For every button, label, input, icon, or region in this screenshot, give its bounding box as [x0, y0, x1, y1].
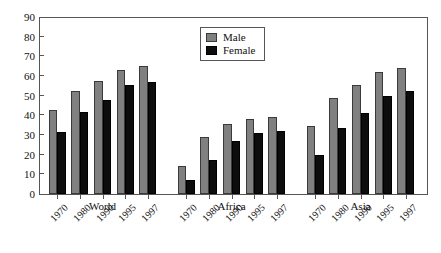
x-axis-year-label: 1997: [139, 202, 161, 224]
x-axis-tick-mark: [209, 195, 210, 199]
legend-swatch-female: [206, 46, 217, 55]
x-axis-year-label: 1995: [116, 202, 138, 224]
bar-africa-1990-male: [223, 124, 232, 194]
y-axis-tick: 20: [0, 148, 44, 162]
legend-label: Female: [223, 44, 255, 57]
y-axis-tick: 60: [0, 69, 44, 83]
x-axis-tick-mark: [406, 195, 407, 199]
bar-asia-1997-male: [397, 68, 406, 194]
x-axis-tick-mark: [103, 195, 104, 199]
bar-world-1990-male: [94, 81, 103, 194]
y-axis-tick-label: 70: [24, 49, 35, 63]
y-axis-tick: 90: [0, 10, 44, 24]
x-axis-tick-mark: [315, 195, 316, 199]
legend-swatch-male: [206, 33, 217, 42]
x-axis-tick-mark: [125, 195, 126, 199]
y-axis-tick: 50: [0, 89, 44, 103]
y-axis-tick-label: 10: [24, 167, 35, 181]
bar-world-1980-male: [71, 91, 80, 194]
x-axis-year-label: 1970: [177, 202, 199, 224]
x-axis-group-label-africa: Africa: [217, 200, 245, 212]
bar-world-1970-male: [49, 110, 58, 194]
bar-asia-1980-female: [338, 128, 347, 194]
bar-world-1997-male: [139, 66, 148, 194]
x-axis-tick-mark: [57, 195, 58, 199]
chart-legend: MaleFemale: [200, 27, 265, 61]
bar-africa-1980-male: [200, 137, 209, 194]
bar-asia-1980-male: [329, 98, 338, 194]
y-axis-tick: 70: [0, 49, 44, 63]
x-axis-year-label: 1970: [48, 202, 70, 224]
bar-africa-1997-male: [268, 117, 277, 194]
bar-africa-1995-male: [246, 119, 255, 194]
y-axis-tick-label: 80: [24, 30, 35, 44]
y-axis-tick-label: 50: [24, 89, 35, 103]
bar-africa-1970-female: [186, 180, 195, 194]
bar-world-1995-male: [117, 70, 126, 194]
bar-world-1997-female: [148, 82, 157, 194]
legend-item-male: Male: [206, 31, 255, 44]
y-axis-tick-label: 60: [24, 69, 35, 83]
x-axis-tick-mark: [80, 195, 81, 199]
x-axis-year-label: 1997: [268, 202, 290, 224]
x-axis-year-label: 1995: [374, 202, 396, 224]
bar-asia-1970-female: [315, 155, 324, 194]
y-axis-tick-label: 0: [30, 187, 36, 201]
bar-africa-1970-male: [178, 166, 187, 194]
x-axis-tick-mark: [254, 195, 255, 199]
bar-africa-1990-female: [232, 141, 241, 194]
x-axis-tick-mark: [277, 195, 278, 199]
bar-asia-1970-male: [307, 126, 316, 194]
bar-world-1990-female: [103, 100, 112, 194]
legend-label: Male: [223, 31, 246, 44]
bar-africa-1980-female: [209, 160, 218, 194]
bar-asia-1990-female: [361, 113, 370, 194]
y-axis-tick: 30: [0, 128, 44, 142]
x-axis-tick-mark: [338, 195, 339, 199]
bar-world-1995-female: [125, 85, 134, 194]
x-axis-year-label: 1980: [329, 202, 351, 224]
bar-world-1970-female: [57, 132, 66, 194]
x-axis-tick-mark: [148, 195, 149, 199]
y-axis-tick-label: 20: [24, 148, 35, 162]
y-axis-tick: 80: [0, 30, 44, 44]
x-axis-group-label-world: World: [89, 200, 116, 212]
y-axis-tick: 40: [0, 108, 44, 122]
legend-item-female: Female: [206, 44, 255, 57]
bar-chart: 9080706050403020100 MaleFemale 197019801…: [0, 0, 441, 253]
bar-asia-1995-male: [375, 72, 384, 194]
x-axis-tick-mark: [383, 195, 384, 199]
x-axis-year-label: 1970: [306, 202, 328, 224]
bar-asia-1990-male: [352, 85, 361, 194]
bar-africa-1995-female: [254, 133, 263, 194]
bar-asia-1997-female: [406, 91, 415, 194]
y-axis-tick-label: 40: [24, 108, 35, 122]
bar-world-1980-female: [80, 112, 89, 194]
x-axis-year-label: 1995: [245, 202, 267, 224]
bar-asia-1995-female: [383, 96, 392, 194]
y-axis-tick: 10: [0, 167, 44, 181]
y-axis-tick: 0: [0, 187, 44, 201]
x-axis-tick-mark: [186, 195, 187, 199]
x-axis-tick-mark: [232, 195, 233, 199]
x-axis-group-label-asia: Asia: [350, 200, 370, 212]
y-axis-tick-label: 90: [24, 10, 35, 24]
x-axis-tick-mark: [361, 195, 362, 199]
bar-africa-1997-female: [277, 131, 286, 194]
y-axis-tick-label: 30: [24, 128, 35, 142]
x-axis-year-label: 1997: [397, 202, 419, 224]
